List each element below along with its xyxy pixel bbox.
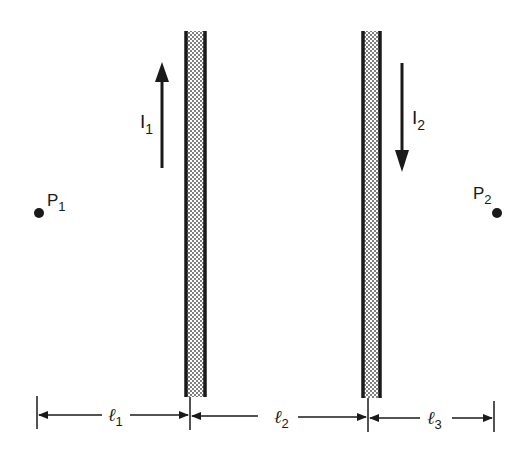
dimension-ticks (37, 396, 494, 432)
current-arrow-i1: I1 (140, 62, 169, 168)
wire-2 (363, 31, 380, 398)
parallel-wires-diagram: I1 I2 P1 P2 ℓ1 ℓ2 ℓ3 (0, 0, 528, 456)
point-label-p1: P1 (47, 191, 66, 214)
dimension-label-l2: ℓ2 (274, 407, 289, 431)
dimension-l2: ℓ2 (192, 407, 366, 431)
dimension-label-l1: ℓ1 (108, 405, 123, 429)
dimension-l1: ℓ1 (39, 405, 188, 429)
wire-1-fill (186, 31, 205, 397)
point-dot-icon (34, 208, 44, 218)
arrow-down-head-icon (395, 150, 409, 172)
current-label-i2: I2 (412, 107, 425, 133)
arrow-up-head-icon (155, 62, 169, 82)
dimension-label-l3: ℓ3 (427, 408, 442, 432)
point-dot-icon (492, 208, 502, 218)
wire-1 (186, 31, 205, 397)
current-arrow-i2: I2 (395, 63, 425, 172)
current-label-i1: I1 (140, 111, 153, 137)
dimension-l3: ℓ3 (370, 408, 492, 432)
wire-2-fill (363, 31, 380, 398)
point-p1: P1 (34, 191, 66, 218)
point-label-p2: P2 (473, 184, 492, 207)
point-p2: P2 (473, 184, 502, 218)
